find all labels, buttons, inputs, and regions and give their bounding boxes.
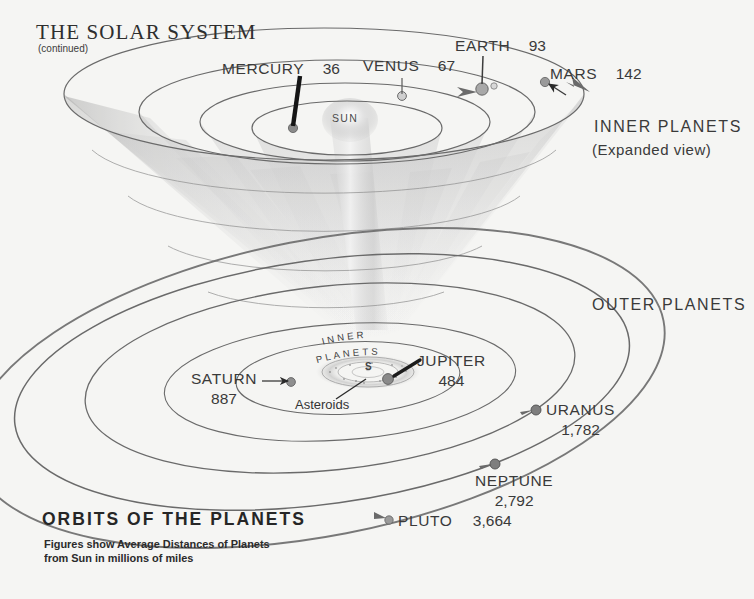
label-mercury: MERCURY 36 — [222, 60, 340, 78]
planet-dot-neptune — [490, 459, 500, 469]
label-earth: EARTH 93 — [455, 37, 546, 55]
planet-dot-saturn — [287, 378, 296, 387]
label-pluto-name: PLUTO — [398, 512, 452, 529]
label-pluto: PLUTO 3,664 — [398, 512, 512, 530]
planet-dot-earth — [476, 83, 488, 95]
label-mars: MARS 142 — [550, 65, 642, 83]
label-uranus: URANUS 1,782 — [546, 401, 615, 439]
label-jupiter-value: 484 — [417, 372, 486, 390]
sun-short-label: S — [365, 361, 372, 372]
footer-caption-line1: Figures show Average Distances of Planet… — [44, 537, 270, 551]
label-venus-value: 67 — [438, 57, 455, 74]
orbit-arrow-pluto — [374, 512, 386, 519]
planet-dot-mars — [540, 77, 549, 86]
label-mercury-name: MERCURY — [222, 60, 304, 77]
orbit-arrow-neptune — [479, 464, 492, 469]
inner-planets-heading: INNER PLANETS — [594, 118, 742, 136]
svg-text:INNER: INNER — [320, 329, 366, 347]
planet-dot-moon — [491, 83, 497, 89]
label-uranus-value: 1,782 — [546, 421, 615, 439]
footer-title: ORBITS OF THE PLANETS — [42, 508, 306, 530]
label-saturn-name: SATURN — [186, 370, 262, 388]
page-title: THE SOLAR SYSTEM — [36, 20, 257, 45]
outer-planets-heading: OUTER PLANETS — [592, 296, 746, 314]
label-mercury-value: 36 — [323, 60, 340, 77]
footer-caption: Figures show Average Distances of Planet… — [44, 537, 270, 565]
planet-dot-pluto — [385, 516, 393, 524]
label-venus: VENUS 67 — [363, 57, 455, 75]
inner-planets-subheading: (Expanded view) — [592, 141, 711, 158]
leader-earth — [482, 56, 483, 84]
leader-mercury — [293, 76, 300, 126]
solar-system-diagram: INNER PLANETS THE SOLAR SYSTEM (continue… — [0, 0, 754, 599]
label-mars-name: MARS — [550, 65, 597, 82]
label-neptune-value: 2,792 — [475, 492, 553, 510]
curved-label-inner: INNER — [320, 329, 366, 347]
page-title-continued: (continued) — [38, 43, 88, 54]
label-earth-value: 93 — [529, 37, 546, 54]
label-saturn: SATURN 887 — [186, 370, 262, 408]
orbit-arrow-earth — [457, 87, 477, 97]
planet-dot-jupiter — [383, 374, 394, 385]
sun-label: SUN — [332, 112, 358, 124]
leader-mars — [549, 84, 566, 95]
label-neptune-name: NEPTUNE — [475, 472, 553, 490]
label-pluto-value: 3,664 — [473, 512, 512, 529]
asteroids-label: Asteroids — [295, 397, 349, 412]
label-uranus-name: URANUS — [546, 401, 615, 419]
planet-dot-uranus — [531, 405, 541, 415]
label-venus-name: VENUS — [363, 57, 419, 74]
label-jupiter-name: JUPITER — [417, 352, 486, 370]
label-saturn-value: 887 — [186, 390, 262, 408]
footer-caption-line2: from Sun in millions of miles — [44, 551, 270, 565]
label-jupiter: JUPITER 484 — [417, 352, 486, 390]
label-neptune: NEPTUNE 2,792 — [475, 472, 553, 510]
label-earth-name: EARTH — [455, 37, 510, 54]
label-mars-value: 142 — [616, 65, 642, 82]
